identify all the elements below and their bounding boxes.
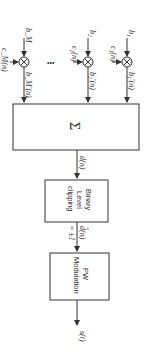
product-label-1: b₁'(n) xyxy=(127,72,136,90)
clipper-output-label: d̂(n) xyxy=(78,226,89,240)
clipper-line-2: Level xyxy=(75,191,84,209)
input-branch-2: b₂ c₂(n) b₂'(n) xyxy=(70,30,97,102)
modulator-line-2: Modulation xyxy=(72,257,81,294)
pw-modulation-block: PW Modulation xyxy=(50,253,109,300)
block-diagram: b₁ c₁(n) b₁'(n) b₂ c₂(n) b₂'(n) ••• b_M xyxy=(0,0,144,364)
input-branch-M: b_M c_M(n) b_M'(n) xyxy=(0,28,33,102)
final-output-label: s(t) xyxy=(78,331,87,342)
input-branch-1: b₁ c₁(n) b₁'(n) xyxy=(109,30,136,102)
ellipsis: ••• xyxy=(47,59,55,66)
product-label-2: b₂'(n) xyxy=(88,72,97,90)
bit-label-M: b_M xyxy=(24,28,33,44)
clipper-line-3: clipping xyxy=(66,186,75,211)
summation-block: Σ xyxy=(13,104,139,150)
multiplier-icon xyxy=(122,57,132,67)
binary-clipping-block: Binary Level clipping xyxy=(45,180,108,222)
modulator-line-1: PW xyxy=(81,268,90,281)
sigma-symbol: Σ xyxy=(67,122,82,130)
multiplier-icon xyxy=(83,57,93,67)
multiplier-icon xyxy=(19,57,29,67)
bit-label-2: b₂ xyxy=(88,30,97,37)
clipper-line-1: Binary xyxy=(84,189,93,211)
code-label-1: c₁(n) xyxy=(109,46,118,62)
bit-label-1: b₁ xyxy=(127,30,136,37)
clipper-output-value: = ±1 xyxy=(67,225,76,241)
code-label-M: c_M(n) xyxy=(0,48,9,72)
code-label-2: c₂(n) xyxy=(70,46,79,62)
sum-output-label: d(n) xyxy=(78,156,87,170)
product-label-M: b_M'(n) xyxy=(24,72,33,98)
